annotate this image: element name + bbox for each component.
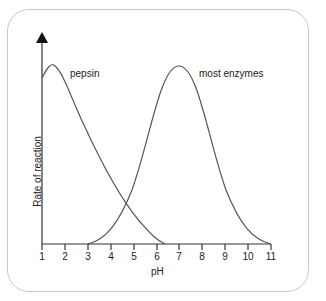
x-tick-label: 9: [217, 251, 233, 262]
most-enzymes-label: most enzymes: [199, 68, 263, 79]
x-tick-label: 11: [263, 251, 279, 262]
x-tick-label: 1: [34, 251, 50, 262]
x-tick-label: 5: [126, 251, 142, 262]
x-tick-label: 10: [240, 251, 256, 262]
most-enzymes-curve: [88, 66, 271, 244]
pepsin-curve: [42, 65, 165, 244]
x-ticks: [42, 244, 271, 250]
pepsin-label: pepsin: [70, 68, 99, 79]
y-axis-label: Rate of reaction: [32, 122, 43, 222]
x-tick-label: 4: [103, 251, 119, 262]
y-axis-arrow-icon: [36, 32, 48, 43]
x-tick-label: 7: [171, 251, 187, 262]
x-tick-label: 2: [57, 251, 73, 262]
x-tick-label: 8: [194, 251, 210, 262]
x-tick-label: 3: [80, 251, 96, 262]
x-tick-label: 6: [149, 251, 165, 262]
x-axis-label: pH: [151, 266, 164, 277]
